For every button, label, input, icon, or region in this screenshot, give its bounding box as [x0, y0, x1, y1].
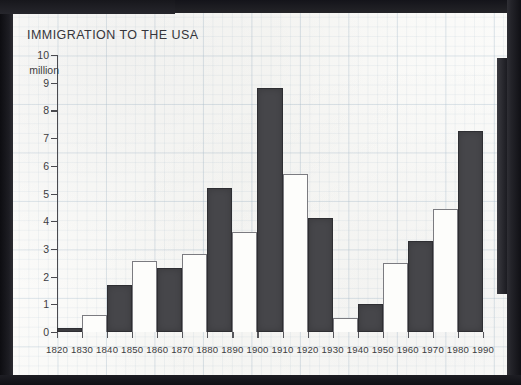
y-tick — [51, 55, 57, 56]
x-tick-label: 1950 — [372, 344, 394, 355]
x-tick — [283, 332, 284, 338]
y-tick-label: 4 — [15, 215, 49, 227]
y-tick-label: 8 — [15, 104, 49, 116]
x-tick — [408, 332, 409, 338]
x-tick-label: 1840 — [96, 344, 118, 355]
y-tick-label: 7 — [15, 132, 49, 144]
chart-title: IMMIGRATION TO THE USA — [27, 28, 199, 42]
bar-1860-1870 — [157, 268, 182, 332]
x-tick-label: 1970 — [422, 344, 444, 355]
scan-border-top — [175, 0, 521, 13]
bar-1940-1950 — [358, 304, 383, 332]
y-tick — [51, 304, 57, 305]
immigration-bar-chart: IMMIGRATION TO THE USA million 012345678… — [13, 13, 507, 375]
x-tick — [182, 332, 183, 338]
y-tick-label: 2 — [15, 271, 49, 283]
y-tick-label: 3 — [15, 243, 49, 255]
bar-1910-1920 — [283, 174, 308, 332]
x-tick — [82, 332, 83, 338]
bar-1960-1970 — [408, 241, 433, 332]
bar-1930-1940 — [333, 318, 358, 332]
x-tick-label: 1890 — [221, 344, 243, 355]
x-tick-label: 1930 — [322, 344, 344, 355]
x-tick-label: 1960 — [397, 344, 419, 355]
x-tick-label: 1980 — [447, 344, 469, 355]
x-tick — [308, 332, 309, 338]
x-tick-label: 1830 — [71, 344, 93, 355]
y-tick-label: 6 — [15, 160, 49, 172]
scan-border-bottom — [0, 375, 521, 385]
bar-1970-1980 — [433, 209, 458, 332]
y-tick — [51, 194, 57, 195]
y-axis-unit-label: million — [15, 64, 59, 76]
x-tick-label: 1920 — [297, 344, 319, 355]
bar-1900-1910 — [257, 88, 282, 332]
x-tick — [333, 332, 334, 338]
y-tick-label: 5 — [15, 188, 49, 200]
bar-1870-1880 — [182, 254, 207, 332]
y-axis-line — [57, 55, 58, 332]
x-tick — [257, 332, 258, 338]
x-tick — [132, 332, 133, 338]
y-tick — [51, 277, 57, 278]
bar-1890-1900 — [232, 232, 257, 332]
x-tick-label: 1910 — [271, 344, 293, 355]
bar-1880-1890 — [207, 188, 232, 332]
scan-border-right-notch — [497, 58, 507, 294]
x-tick-label: 1940 — [347, 344, 369, 355]
y-tick — [51, 83, 57, 84]
x-tick — [433, 332, 434, 338]
x-tick — [483, 332, 484, 338]
scan-border-left — [0, 0, 13, 385]
x-tick-label: 1880 — [196, 344, 218, 355]
y-tick-label: 1 — [15, 298, 49, 310]
x-tick-label: 1850 — [121, 344, 143, 355]
x-tick — [458, 332, 459, 338]
scan-border-right — [507, 0, 521, 385]
x-tick-label: 1990 — [472, 344, 494, 355]
bar-1920-1930 — [308, 218, 333, 332]
y-tick-label: 0 — [15, 326, 49, 338]
y-tick — [51, 166, 57, 167]
y-tick-label: 9 — [15, 77, 49, 89]
bar-1850-1860 — [132, 261, 157, 332]
x-tick — [358, 332, 359, 338]
x-tick — [157, 332, 158, 338]
x-tick-label: 1820 — [46, 344, 68, 355]
x-tick — [207, 332, 208, 338]
bar-1840-1850 — [107, 285, 132, 332]
x-tick-label: 1860 — [146, 344, 168, 355]
bar-1980-1990 — [458, 131, 483, 332]
bar-1820-1830 — [57, 328, 82, 332]
y-tick — [51, 110, 57, 111]
plot-area: million 012345678910 1820183018401850186… — [57, 55, 483, 332]
bar-1830-1840 — [82, 315, 107, 332]
y-tick — [51, 138, 57, 139]
y-tick-label: 10 — [15, 49, 49, 61]
x-tick — [232, 332, 233, 338]
x-tick — [383, 332, 384, 338]
scanned-chart-page: IMMIGRATION TO THE USA million 012345678… — [13, 13, 507, 375]
x-tick — [57, 332, 58, 338]
x-tick — [107, 332, 108, 338]
y-tick — [51, 249, 57, 250]
y-tick — [51, 221, 57, 222]
bar-1950-1960 — [383, 263, 408, 332]
x-tick-label: 1900 — [246, 344, 268, 355]
scan-border-top-left — [0, 0, 175, 14]
x-tick-label: 1870 — [171, 344, 193, 355]
